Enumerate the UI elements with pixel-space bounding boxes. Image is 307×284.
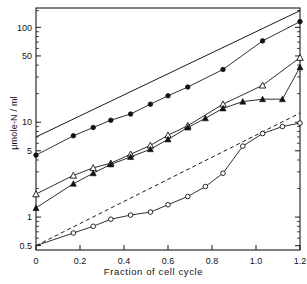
x-tick-label: 0 <box>33 256 38 266</box>
y-tick-label: 5 <box>27 146 32 156</box>
series-upper-reference-line <box>36 11 300 137</box>
y-tick-label: 1 <box>27 212 32 222</box>
y-tick-label: 10 <box>22 117 32 127</box>
x-tick-label: 0.4 <box>118 256 131 266</box>
series-line <box>36 11 300 137</box>
y-tick-label: 100 <box>17 23 32 33</box>
y-tick-label: 50 <box>22 51 32 61</box>
x-axis-ticks: 00.20.40.60.81.01.2 <box>33 245 306 266</box>
x-tick-label: 0.6 <box>162 256 175 266</box>
chart-canvas: 00.20.40.60.81.01.2 0.5151050100 <box>0 0 307 284</box>
series-open-triangles <box>33 54 303 196</box>
x-axis-title: Fraction of cell cycle <box>0 266 307 277</box>
y-axis-ticks: 0.5151050100 <box>17 11 300 251</box>
y-tick-label: 0.5 <box>19 241 32 251</box>
x-tick-label: 0.2 <box>74 256 87 266</box>
x-tick-label: 0.8 <box>206 256 219 266</box>
data-series-layer <box>33 11 303 246</box>
y-axis-title: μmole-N / ml <box>9 83 19 163</box>
plot-frame <box>36 8 300 250</box>
x-tick-label: 1.0 <box>250 256 263 266</box>
x-tick-label: 1.2 <box>294 256 307 266</box>
series-line <box>36 58 300 194</box>
figure: 00.20.40.60.81.01.2 0.5151050100 μmole-N… <box>0 0 307 284</box>
